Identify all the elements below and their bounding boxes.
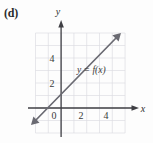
function-annotation-label: y = f(x) <box>76 65 106 76</box>
axes <box>28 20 139 137</box>
y-axis-arrowhead <box>58 20 64 28</box>
x-axis-arrowhead <box>132 105 140 111</box>
graph-canvas: 0 2 4 2 4 x y y = f(x) <box>0 0 153 143</box>
x-tick-label-0: 0 <box>52 110 57 121</box>
x-axis-label: x <box>140 103 146 114</box>
x-tick-label-4: 4 <box>104 110 109 121</box>
y-axis-label: y <box>55 6 61 17</box>
y-tick-label-4: 4 <box>50 53 55 64</box>
figure-panel-d: (d) <box>0 0 153 143</box>
y-tick-label-2: 2 <box>50 78 55 89</box>
x-tick-label-2: 2 <box>79 110 84 121</box>
